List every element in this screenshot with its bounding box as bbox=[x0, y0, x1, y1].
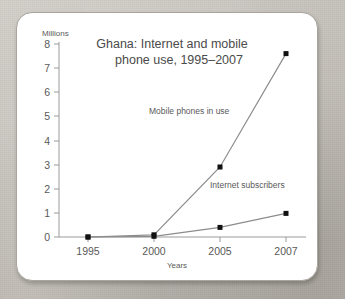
series-markers-internet-subscribers bbox=[86, 211, 289, 240]
series-line-mobile-phones bbox=[88, 54, 286, 237]
series-markers-mobile-phones bbox=[86, 51, 289, 239]
y-tick-label-0: 0 bbox=[44, 231, 50, 243]
x-tick-label-2005: 2005 bbox=[208, 245, 232, 257]
x-axis-ticks: 1995 2000 2005 2007 bbox=[76, 237, 298, 257]
x-tick-label-1995: 1995 bbox=[76, 245, 100, 257]
series-line-internet-subscribers bbox=[88, 213, 286, 237]
y-axis-ticks: 8 7 6 5 4 3 2 1 0 bbox=[44, 38, 59, 243]
y-tick-label-6: 6 bbox=[44, 86, 50, 98]
x-tick-label-2000: 2000 bbox=[142, 245, 166, 257]
y-tick-label-2: 2 bbox=[44, 183, 50, 195]
y-tick-label-7: 7 bbox=[44, 62, 50, 74]
chart-title-line-2: phone use, 1995–2007 bbox=[115, 53, 243, 67]
chart-title-line-1: Ghana: Internet and mobile bbox=[96, 37, 248, 51]
y-tick-label-5: 5 bbox=[44, 110, 50, 122]
y-tick-label-8: 8 bbox=[44, 38, 50, 50]
x-axis-title: Years bbox=[167, 261, 187, 270]
y-tick-label-4: 4 bbox=[44, 135, 50, 147]
series-annotation-internet-subscribers: Internet subscribers bbox=[210, 180, 285, 190]
x-tick-label-2007: 2007 bbox=[274, 245, 298, 257]
series-annotation-mobile-phones: Mobile phones in use bbox=[149, 106, 230, 116]
chart-card: Millions Ghana: Internet and mobile phon… bbox=[16, 12, 318, 281]
y-tick-label-1: 1 bbox=[44, 207, 50, 219]
y-tick-label-3: 3 bbox=[44, 159, 50, 171]
y-axis-title: Millions bbox=[42, 29, 69, 38]
line-chart: Millions Ghana: Internet and mobile phon… bbox=[17, 13, 317, 280]
